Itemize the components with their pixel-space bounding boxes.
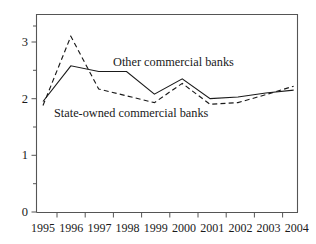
series-state-owned-commercial-banks [43, 36, 294, 105]
annotation-other-commercial-banks: Other commercial banks [113, 56, 234, 68]
x-ticks [57, 213, 283, 218]
y-tick-label-3: 3 [8, 36, 28, 49]
line-chart: 3 2 1 0 1995 1996 1997 1998 1999 2000 20… [0, 0, 316, 244]
annotation-state-owned-commercial-banks: State-owned commercial banks [54, 107, 208, 119]
plot-canvas [0, 0, 316, 244]
y-tick-label-2: 2 [8, 93, 28, 106]
y-tick-label-1: 1 [8, 149, 28, 162]
series-other-commercial-banks [43, 66, 294, 102]
x-tick-label-2004: 2004 [270, 222, 316, 234]
y-tick-label-0: 0 [8, 206, 28, 219]
